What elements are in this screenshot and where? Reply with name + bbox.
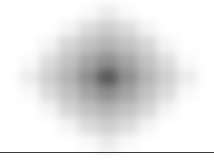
heatmap-figure [0,0,214,164]
bottom-axis-rule [0,152,214,153]
heatmap-plot-area [0,0,214,164]
